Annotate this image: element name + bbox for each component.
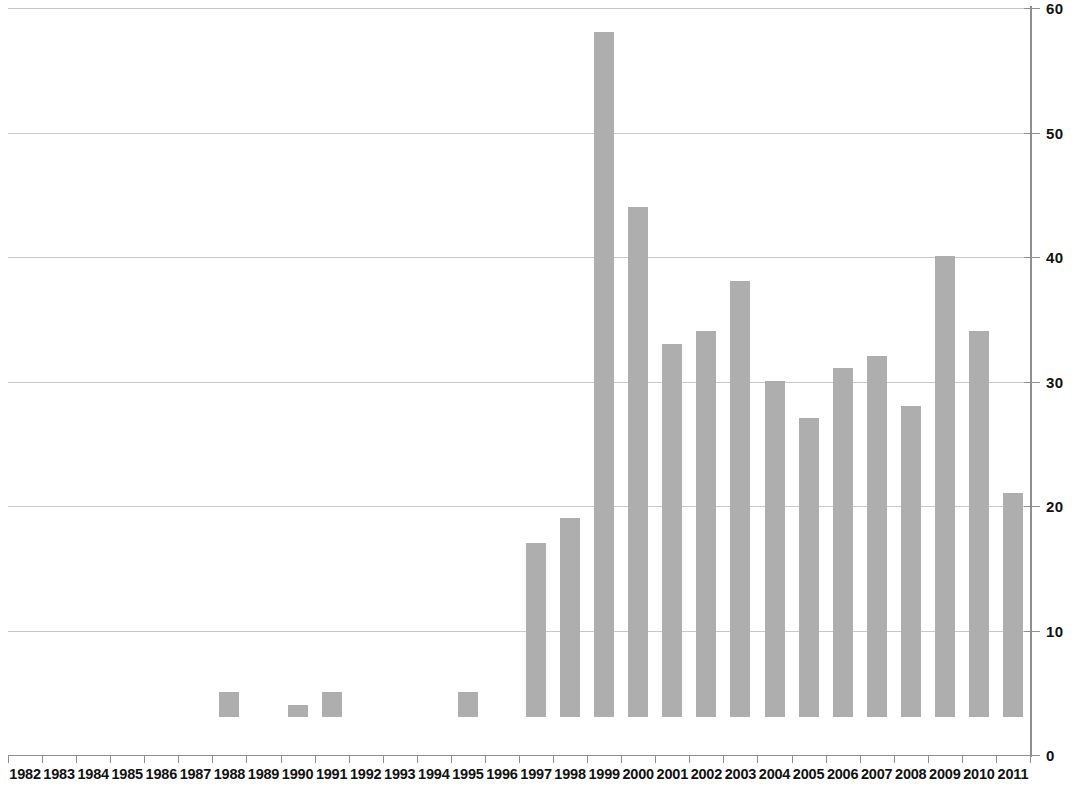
y-axis-label-10: 10 bbox=[1046, 622, 1086, 639]
bar-chart: 0102030405060198219831984198519861987198… bbox=[0, 0, 1086, 793]
bar-2009 bbox=[935, 256, 955, 717]
x-tick-end bbox=[1030, 756, 1031, 763]
y-tick-20 bbox=[1024, 506, 1040, 507]
x-tick-1998 bbox=[553, 756, 554, 763]
x-tick-1990 bbox=[281, 756, 282, 763]
y-tick-40 bbox=[1024, 257, 1040, 258]
bar-1998 bbox=[560, 518, 580, 717]
bar-2002 bbox=[696, 331, 716, 717]
x-tick-2011 bbox=[996, 756, 997, 763]
y-tick-0 bbox=[1024, 755, 1040, 756]
bars-layer bbox=[8, 0, 1030, 755]
x-tick-1982 bbox=[8, 756, 9, 763]
x-tick-1987 bbox=[178, 756, 179, 763]
x-axis-label-2011: 2011 bbox=[991, 766, 1035, 782]
x-tick-2008 bbox=[894, 756, 895, 763]
x-tick-2004 bbox=[757, 756, 758, 763]
y-tick-60 bbox=[1024, 8, 1040, 9]
x-axis-line bbox=[8, 755, 1032, 756]
bar-2005 bbox=[799, 418, 819, 717]
x-tick-1994 bbox=[417, 756, 418, 763]
bar-1999 bbox=[594, 32, 614, 717]
bar-2010 bbox=[969, 331, 989, 717]
x-tick-2002 bbox=[689, 756, 690, 763]
bar-1991 bbox=[322, 692, 342, 717]
y-axis-label-20: 20 bbox=[1046, 498, 1086, 515]
x-tick-1991 bbox=[315, 756, 316, 763]
bar-2001 bbox=[662, 344, 682, 718]
bar-1995 bbox=[458, 692, 478, 717]
x-tick-2000 bbox=[621, 756, 622, 763]
bar-1988 bbox=[219, 692, 239, 717]
x-tick-1989 bbox=[246, 756, 247, 763]
y-axis-label-30: 30 bbox=[1046, 373, 1086, 390]
bar-2007 bbox=[867, 356, 887, 717]
bar-2008 bbox=[901, 406, 921, 717]
x-tick-1996 bbox=[485, 756, 486, 763]
bar-2003 bbox=[730, 281, 750, 717]
x-tick-1988 bbox=[212, 756, 213, 763]
y-tick-30 bbox=[1024, 382, 1040, 383]
x-tick-2003 bbox=[723, 756, 724, 763]
x-tick-1986 bbox=[144, 756, 145, 763]
x-tick-1999 bbox=[587, 756, 588, 763]
bar-2011 bbox=[1003, 493, 1023, 717]
x-tick-1997 bbox=[519, 756, 520, 763]
y-axis-label-0: 0 bbox=[1046, 747, 1086, 764]
y-axis-label-50: 50 bbox=[1046, 124, 1086, 141]
x-tick-1985 bbox=[110, 756, 111, 763]
bar-1997 bbox=[526, 543, 546, 717]
x-tick-1993 bbox=[383, 756, 384, 763]
x-tick-1984 bbox=[76, 756, 77, 763]
x-tick-1983 bbox=[42, 756, 43, 763]
bar-2006 bbox=[833, 368, 853, 717]
y-tick-50 bbox=[1024, 133, 1040, 134]
bar-1990 bbox=[288, 705, 308, 717]
x-tick-2006 bbox=[826, 756, 827, 763]
y-axis-label-60: 60 bbox=[1046, 0, 1086, 17]
x-tick-1992 bbox=[349, 756, 350, 763]
bar-2004 bbox=[765, 381, 785, 717]
x-tick-1995 bbox=[451, 756, 452, 763]
x-tick-2007 bbox=[860, 756, 861, 763]
x-tick-2009 bbox=[928, 756, 929, 763]
x-tick-2001 bbox=[655, 756, 656, 763]
x-tick-2005 bbox=[792, 756, 793, 763]
y-axis-label-40: 40 bbox=[1046, 249, 1086, 266]
x-tick-2010 bbox=[962, 756, 963, 763]
bar-2000 bbox=[628, 207, 648, 717]
y-tick-10 bbox=[1024, 631, 1040, 632]
